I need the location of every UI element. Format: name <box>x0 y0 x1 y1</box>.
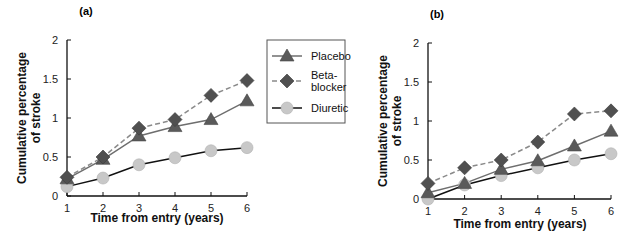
y-axis-title: Cumulative percentage <box>376 55 390 187</box>
x-tick-label: 3 <box>498 205 504 217</box>
diamond-marker-icon <box>494 153 508 167</box>
circle-marker-icon <box>133 159 145 171</box>
diamond-marker-icon <box>567 107 581 121</box>
circle-marker-icon <box>241 142 253 154</box>
triangle-marker-icon <box>604 124 618 136</box>
panel-label: (b) <box>430 8 444 20</box>
y-tick-label: 0.5 <box>43 151 58 163</box>
y-tick-label: 1 <box>52 112 58 124</box>
legend-label: Placebo <box>311 50 351 62</box>
circle-marker-icon <box>605 148 617 160</box>
diamond-marker-icon <box>132 121 146 135</box>
y-tick-label: 1 <box>413 115 419 127</box>
diamond-marker-icon <box>458 161 472 175</box>
x-tick-label: 4 <box>535 205 541 217</box>
axes: 00.511.52123456 <box>404 37 614 217</box>
chart-panel-b: (b)00.511.52123456Time from entry (years… <box>376 8 618 231</box>
circle-marker-icon <box>205 145 217 157</box>
series-line-beta-blocker <box>428 111 611 184</box>
legend-item-diuretic: Diuretic <box>272 102 349 114</box>
y-axis-title: of stroke <box>29 92 43 143</box>
circle-marker-icon <box>97 172 109 184</box>
y-tick-label: 1.5 <box>404 76 419 88</box>
x-tick-label: 5 <box>571 205 577 217</box>
legend-label: Beta- <box>311 69 338 81</box>
y-tick-label: 0 <box>413 193 419 205</box>
x-axis-title: Time from entry (years) <box>453 217 586 231</box>
diamond-marker-icon <box>240 74 254 88</box>
legend-label: Diuretic <box>311 102 349 114</box>
diamond-marker-icon <box>168 113 182 127</box>
circle-marker-icon <box>568 154 580 166</box>
circle-marker-icon <box>169 152 181 164</box>
figure: (a)00.511.52123456Time from entry (years… <box>0 0 625 247</box>
series-line-diuretic <box>67 148 247 187</box>
y-axis-title: Cumulative percentage <box>15 52 29 184</box>
axes: 00.511.52123456 <box>43 34 250 214</box>
x-tick-label: 6 <box>244 202 250 214</box>
chart-panel-a: (a)00.511.52123456Time from entry (years… <box>15 5 254 225</box>
series-line-placebo <box>67 101 247 179</box>
diamond-marker-icon <box>531 135 545 149</box>
x-tick-label: 2 <box>462 205 468 217</box>
y-tick-label: 0.5 <box>404 154 419 166</box>
diamond-marker-icon <box>604 104 618 118</box>
x-axis-title: Time from entry (years) <box>90 211 223 225</box>
diamond-marker-icon <box>204 88 218 102</box>
diamond-marker-icon <box>421 176 435 190</box>
triangle-marker-icon <box>240 94 254 106</box>
chart-figure: (a)00.511.52123456Time from entry (years… <box>0 0 625 247</box>
x-tick-label: 6 <box>608 205 614 217</box>
triangle-marker-icon <box>531 154 545 166</box>
x-tick-label: 1 <box>425 205 431 217</box>
y-axis-title: of stroke <box>390 95 404 146</box>
triangle-marker-icon <box>204 113 218 125</box>
series-markers-diuretic <box>422 148 617 205</box>
x-tick-label: 1 <box>64 202 70 214</box>
series-line-placebo <box>428 131 611 193</box>
y-tick-label: 1.5 <box>43 73 58 85</box>
series-line-beta-blocker <box>67 81 247 178</box>
series-markers-beta-blocker <box>421 104 618 191</box>
y-tick-label: 0 <box>52 190 58 202</box>
y-tick-label: 2 <box>52 34 58 46</box>
y-tick-label: 2 <box>413 37 419 49</box>
panel-label: (a) <box>79 5 93 17</box>
legend: PlaceboBeta-blockerDiuretic <box>267 40 351 123</box>
series-line-diuretic <box>428 154 611 199</box>
legend-label: blocker <box>311 81 347 93</box>
triangle-marker-icon <box>567 139 581 151</box>
series-markers-placebo <box>60 94 254 184</box>
legend-circle-icon <box>281 102 293 114</box>
